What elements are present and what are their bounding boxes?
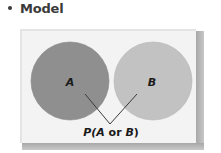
caption-b: B	[125, 126, 133, 139]
caption-p: P(	[83, 126, 97, 139]
union-caption: P(A or B)	[83, 126, 139, 139]
caption-a: A	[95, 126, 105, 139]
caption-or: or	[105, 126, 126, 139]
set-b-label: B	[148, 76, 156, 89]
venn-diagram: A B P(A or B)	[0, 0, 221, 153]
caption-close: )	[134, 126, 139, 139]
set-a-label: A	[65, 76, 75, 89]
